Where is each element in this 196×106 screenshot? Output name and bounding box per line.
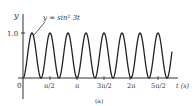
annotation-arrow <box>34 22 45 35</box>
x-axis-label: t (s) <box>176 82 190 90</box>
figure-caption: (a) <box>95 97 103 104</box>
x-tick-label-pi-2: π/2 <box>44 82 55 90</box>
chart-canvas: y 1.0 y = sin² 3t 0 π/2 π 3π/2 2π 5π/2 t… <box>0 0 196 106</box>
x-tick-label-2pi: 2π <box>127 82 136 90</box>
x-tick-label-pi: π <box>75 82 80 90</box>
origin-label: 0 <box>17 82 21 90</box>
y-axis-label: y <box>13 11 19 20</box>
function-annotation: y = sin² 3t <box>42 14 80 22</box>
y-tick-label: 1.0 <box>7 30 18 38</box>
x-tick-label-5pi-2: 5π/2 <box>151 82 166 90</box>
x-tick-label-3pi-2: 3π/2 <box>97 82 112 90</box>
sin-squared-curve <box>23 33 172 78</box>
